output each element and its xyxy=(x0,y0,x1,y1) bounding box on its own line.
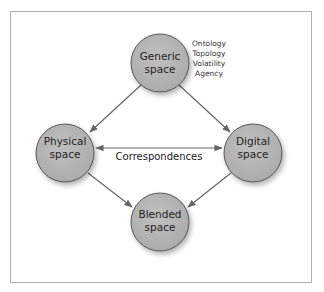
arrow-generic-to-digital xyxy=(179,85,230,132)
node-label: space xyxy=(50,148,81,160)
node-generic-space: Generic space xyxy=(131,34,189,92)
node-blended-space: Blended space xyxy=(131,193,189,251)
edges xyxy=(88,85,231,207)
node-digital-space: Digital space xyxy=(224,124,282,182)
arrow-generic-to-physical xyxy=(90,85,141,132)
arrow-digital-to-blended xyxy=(188,173,231,207)
node-label: Physical xyxy=(44,135,87,147)
generic-attributes-list: Ontology Topology Volatility Agency xyxy=(191,39,226,78)
attribute-item: Agency xyxy=(195,69,223,78)
node-label: space xyxy=(145,221,176,233)
node-label: Blended xyxy=(138,208,181,220)
attribute-item: Ontology xyxy=(192,39,227,48)
attribute-item: Topology xyxy=(191,49,226,58)
node-physical-space: Physical space xyxy=(36,124,94,182)
node-label: space xyxy=(238,148,269,160)
node-label: space xyxy=(145,63,176,75)
node-label: Digital xyxy=(236,135,270,147)
attribute-item: Volatility xyxy=(193,59,226,68)
correspondences-label: Correspondences xyxy=(116,151,203,162)
blending-diagram: Correspondences Generic space Ontology T… xyxy=(0,0,324,292)
node-label: Generic xyxy=(140,50,181,62)
arrow-physical-to-blended xyxy=(88,173,132,207)
